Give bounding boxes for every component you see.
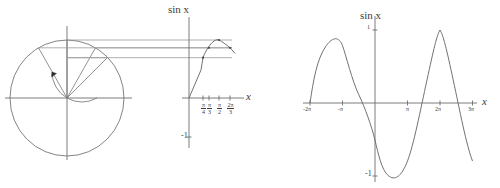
- full-sine-wave-plot: [255, 0, 500, 188]
- figure-root: sin x x -1 π 4 π 3 π 2 2π 3: [0, 0, 500, 188]
- left-x-axis-label: x: [246, 91, 251, 102]
- fraction-pi-over-3: π 3: [207, 102, 211, 115]
- right-y-axis-title: sin x: [360, 10, 381, 21]
- left-tick-label-pi-over-2: π 2: [215, 102, 224, 115]
- left-y-axis-title: sin x: [168, 4, 189, 15]
- panel-full-sine-wave: sin x x 1 -1 -2π -π π 2π 3π: [255, 0, 500, 188]
- fraction-2pi-over-3: 2π 3: [227, 102, 234, 115]
- radius-pi-over-4: [67, 58, 107, 98]
- right-y-axis-title-text: sin x: [360, 9, 381, 21]
- right-tick-label-pi: π: [406, 106, 409, 112]
- right-y-min-label: -1: [365, 170, 372, 178]
- right-tick-label-neg-2pi: -2π: [303, 106, 311, 112]
- left-tick-label-2pi-over-3: 2π 3: [225, 102, 236, 115]
- curve-point-pi-over-3: [208, 47, 210, 49]
- unit-circle-construction-plot: [0, 0, 255, 188]
- right-tick-label-2pi: 2π: [435, 106, 441, 112]
- panel-unit-circle-construction: sin x x -1 π 4 π 3 π 2 2π 3: [0, 0, 255, 188]
- angle-sweep-arc: [52, 72, 97, 102]
- radius-pi-over-3: [67, 48, 96, 98]
- sine-curve-partial: [189, 40, 235, 98]
- right-tick-label-neg-pi: -π: [338, 106, 343, 112]
- left-y-axis-title-text: sin x: [168, 3, 189, 15]
- left-y-min-label: -1: [181, 132, 188, 140]
- right-y-max-label: 1: [367, 24, 370, 30]
- curve-point-pi-over-4: [202, 57, 204, 59]
- right-tick-label-3pi: 3π: [468, 106, 474, 112]
- sweep-arrow-icon: [52, 72, 57, 77]
- fraction-pi-over-2: π 2: [217, 102, 221, 115]
- left-tick-label-pi-over-3: π 3: [205, 102, 214, 115]
- right-x-axis-label: x: [482, 96, 487, 107]
- curve-point-pi-over-2: [218, 39, 220, 41]
- curve-point-2pi-over-3: [229, 47, 231, 49]
- sine-curve-full: [310, 30, 473, 178]
